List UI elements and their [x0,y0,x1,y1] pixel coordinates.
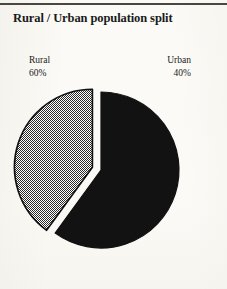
pie-chart-svg [0,0,227,289]
pie-chart [0,0,227,289]
chart-page: Rural / Urban population split Rural 60%… [0,0,227,289]
